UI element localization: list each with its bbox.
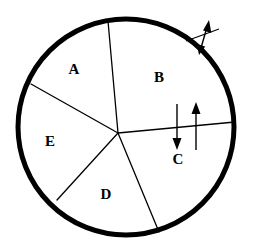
sector-label-d: D [101, 186, 112, 202]
sector-label-b: B [154, 69, 164, 85]
perpendicular-tick-icon [186, 29, 219, 41]
sector-label-e: E [45, 133, 55, 149]
sector-circle-diagram: A B C D E [0, 0, 254, 247]
diagram-root: A B C D E [0, 0, 254, 247]
circle-rim [18, 19, 234, 235]
sector-label-c: C [173, 151, 184, 167]
sector-label-a: A [69, 61, 80, 77]
diagonal-arrow-head-up [203, 20, 211, 33]
